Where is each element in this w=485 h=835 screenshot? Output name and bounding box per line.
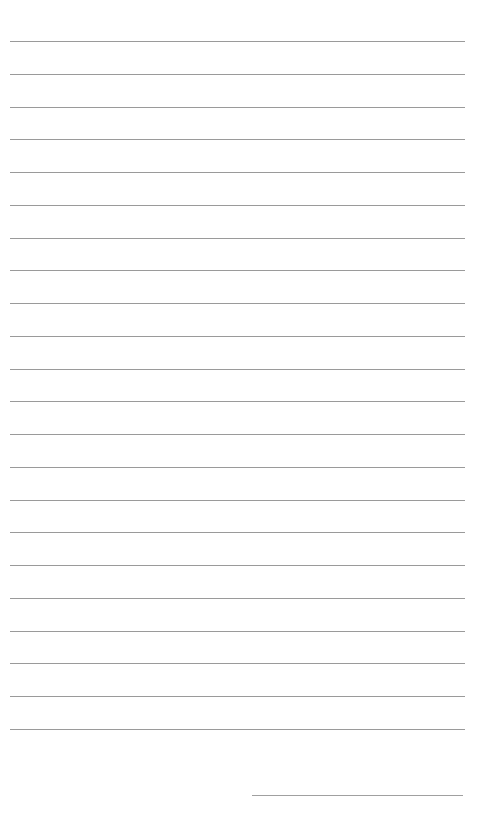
ruled-line	[10, 434, 465, 435]
ruled-line	[10, 532, 465, 533]
ruled-line	[10, 631, 465, 632]
ruled-line	[10, 598, 465, 599]
signature-line	[252, 795, 463, 796]
ruled-line	[10, 172, 465, 173]
ruled-line	[10, 369, 465, 370]
ruled-line	[10, 41, 465, 42]
ruled-line	[10, 336, 465, 337]
ruled-line	[10, 205, 465, 206]
ruled-line	[10, 74, 465, 75]
ruled-line	[10, 139, 465, 140]
ruled-line	[10, 500, 465, 501]
ruled-line	[10, 696, 465, 697]
ruled-line	[10, 401, 465, 402]
ruled-line	[10, 238, 465, 239]
ruled-line	[10, 729, 465, 730]
ruled-line	[10, 270, 465, 271]
ruled-line	[10, 663, 465, 664]
ruled-line	[10, 467, 465, 468]
ruled-line	[10, 303, 465, 304]
ruled-line	[10, 107, 465, 108]
ruled-line	[10, 565, 465, 566]
